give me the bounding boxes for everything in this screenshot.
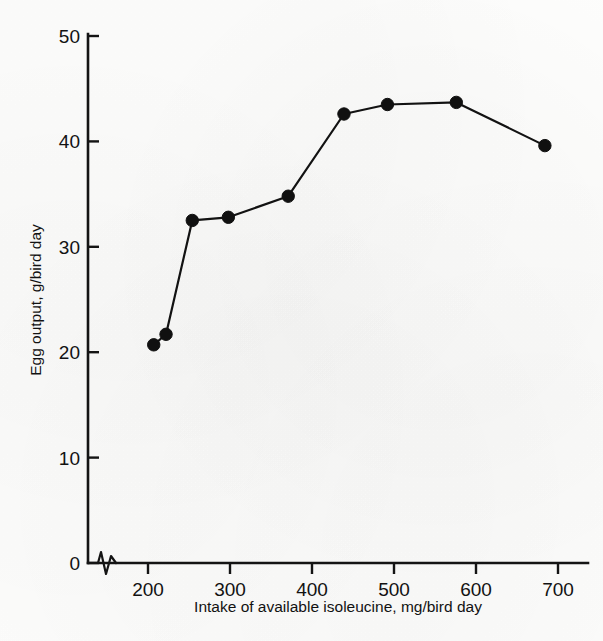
figure-container: 01020304050 200300400500600700 Intake of… [0, 0, 603, 641]
y-tick-label: 50 [59, 26, 80, 47]
y-tick-label-group: 01020304050 [59, 26, 80, 574]
y-tick-label: 10 [59, 448, 80, 469]
series-line-egg-output [154, 102, 545, 344]
y-tick-label: 20 [59, 342, 80, 363]
series-marker-group [148, 96, 552, 351]
data-point-marker [338, 108, 350, 120]
x-tick-label-group: 200300400500600700 [132, 579, 574, 600]
x-tick-label: 500 [378, 579, 410, 600]
data-point-marker [539, 139, 551, 151]
data-point-marker [282, 190, 294, 202]
x-tick-label: 600 [460, 579, 492, 600]
data-point-marker [381, 98, 393, 110]
data-point-marker [148, 339, 160, 351]
y-tick-label: 40 [59, 131, 80, 152]
x-tick-label: 200 [132, 579, 164, 600]
data-point-marker [186, 214, 198, 226]
data-point-marker [222, 211, 234, 223]
data-point-marker [160, 328, 172, 340]
y-tick-label: 30 [59, 237, 80, 258]
x-tick-label: 700 [542, 579, 574, 600]
y-axis-title: Egg output, g/bird day [27, 224, 44, 376]
x-tick-label: 300 [214, 579, 246, 600]
x-axis-title: Intake of available isoleucine, mg/bird … [194, 598, 482, 615]
x-tick-group [148, 563, 558, 574]
line-chart: 01020304050 200300400500600700 Intake of… [0, 0, 603, 641]
y-tick-group [88, 36, 99, 563]
x-tick-label: 400 [296, 579, 328, 600]
data-point-marker [450, 96, 462, 108]
y-tick-label: 0 [69, 553, 80, 574]
